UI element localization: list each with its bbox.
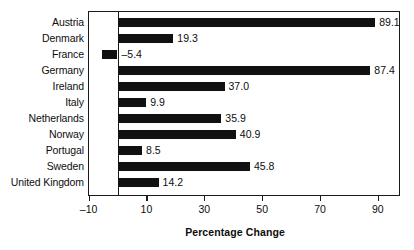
x-axis-tick: [204, 196, 205, 201]
category-label: France: [0, 49, 84, 60]
x-axis-title-text: Percentage Change: [185, 226, 285, 238]
category-axis-labels: Austria Denmark France Germany Ireland I…: [0, 14, 84, 190]
x-axis-tick-label: 10: [141, 203, 153, 215]
x-axis-tick: [320, 196, 321, 201]
x-axis-tick: [378, 196, 379, 201]
x-axis-tick: [89, 196, 90, 201]
category-label: Denmark: [0, 33, 84, 44]
category-label: Germany: [0, 65, 84, 76]
x-axis-tick-label: 70: [314, 203, 326, 215]
category-label: Italy: [0, 97, 84, 108]
x-axis-tick-label: 50: [256, 203, 268, 215]
category-label: Ireland: [0, 81, 84, 92]
category-label: Austria: [0, 17, 84, 28]
bar-chart: Austria Denmark France Germany Ireland I…: [0, 0, 414, 250]
category-label: Portugal: [0, 145, 84, 156]
x-axis-tick: [262, 196, 263, 201]
category-label: Sweden: [0, 161, 84, 172]
category-label: Norway: [0, 129, 84, 140]
x-axis-tick-label: –10: [80, 203, 98, 215]
x-axis-title: Percentage Change: [0, 226, 414, 238]
x-axis-tick-label: 90: [372, 203, 384, 215]
category-label: Netherlands: [0, 113, 84, 124]
plot-frame: [88, 11, 400, 196]
x-axis-tick: [146, 196, 147, 201]
zero-axis-line: [118, 11, 119, 196]
x-axis-tick-label: 30: [198, 203, 210, 215]
category-label: United Kingdom: [0, 177, 84, 188]
